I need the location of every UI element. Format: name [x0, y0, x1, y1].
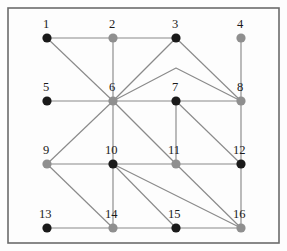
graph-node-11[interactable]: [171, 159, 180, 168]
graph-node-label-5: 5: [43, 80, 49, 94]
graph-edge: [176, 164, 241, 228]
graph-node-8[interactable]: [236, 96, 245, 105]
graph-node-3[interactable]: [171, 33, 180, 42]
graph-node-label-9: 9: [43, 143, 49, 157]
graph-node-label-15: 15: [168, 207, 181, 221]
graph-edge: [176, 101, 241, 164]
graph-node-label-8: 8: [237, 80, 243, 94]
edge-layer: [47, 38, 241, 228]
graph-node-10[interactable]: [108, 159, 117, 168]
graph-edge: [113, 164, 176, 228]
graph-node-label-3: 3: [172, 17, 178, 31]
graph-node-label-12: 12: [233, 143, 246, 157]
graph-node-1[interactable]: [42, 33, 51, 42]
graph-node-label-4: 4: [237, 17, 244, 31]
graph-node-label-16: 16: [233, 207, 246, 221]
graph-node-9[interactable]: [42, 159, 51, 168]
graph-node-label-11: 11: [168, 143, 180, 157]
graph-node-4[interactable]: [236, 33, 245, 42]
graph-node-label-1: 1: [43, 17, 49, 31]
graph-node-6[interactable]: [108, 96, 117, 105]
graph-node-7[interactable]: [171, 96, 180, 105]
graph-node-16[interactable]: [236, 223, 245, 232]
graph-node-12[interactable]: [236, 159, 245, 168]
graph-node-5[interactable]: [42, 96, 51, 105]
graph-edge: [47, 164, 113, 228]
graph-edge: [47, 101, 113, 164]
graph-node-label-2: 2: [109, 17, 115, 31]
graph-node-13[interactable]: [42, 223, 51, 232]
node-label-layer: 12345678910111213141516: [39, 17, 246, 221]
graph-canvas: 12345678910111213141516: [0, 0, 287, 251]
graph-edge: [47, 38, 113, 101]
graph-figure: 12345678910111213141516: [0, 0, 287, 251]
graph-node-label-10: 10: [105, 143, 118, 157]
graph-node-label-6: 6: [109, 80, 115, 94]
graph-node-label-14: 14: [105, 207, 118, 221]
graph-node-15[interactable]: [171, 223, 180, 232]
graph-node-label-7: 7: [172, 80, 178, 94]
graph-edge: [176, 38, 241, 101]
graph-node-2[interactable]: [108, 33, 117, 42]
graph-edge: [113, 101, 176, 164]
graph-node-label-13: 13: [39, 207, 52, 221]
graph-edge: [113, 38, 176, 101]
graph-node-14[interactable]: [108, 223, 117, 232]
